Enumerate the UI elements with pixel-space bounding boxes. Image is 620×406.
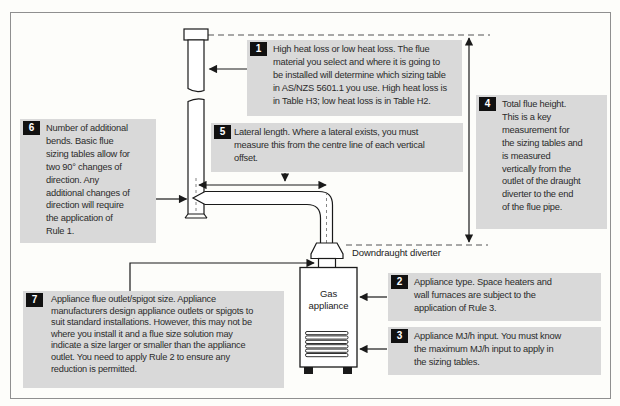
callout-box-5: 5 Lateral length. Where a lateral exists… xyxy=(211,123,463,172)
lateral-pipe-fill xyxy=(205,192,333,244)
callout-7-number-badge: 7 xyxy=(26,293,43,307)
callout-1-text: High heat loss or low heat loss. The flu… xyxy=(247,40,462,108)
callout-6-number-badge: 6 xyxy=(23,121,40,135)
callout-box-1: 1 High heat loss or low heat loss. The f… xyxy=(247,40,462,116)
callout-2-number-badge: 2 xyxy=(391,275,408,289)
callout-box-3: 3 Appliance MJ/h input. You must know th… xyxy=(388,327,601,375)
callout-7-text: Appliance flue outlet/spigot size. Appli… xyxy=(23,291,284,375)
callout-5-number-badge: 5 xyxy=(214,125,231,139)
flue-terminal-cap xyxy=(184,29,208,40)
callout-1-number-badge: 1 xyxy=(250,42,267,56)
callout-box-2: 2 Appliance type. Space heaters and wall… xyxy=(388,273,601,321)
callout-5-text: Lateral length. Where a lateral exists, … xyxy=(211,123,463,165)
callout-box-7: 7 Appliance flue outlet/spigot size. App… xyxy=(23,291,284,388)
callout-7-connector-arrow xyxy=(130,263,314,291)
figure-flue-sizing-diagram: Downdraught diverter Gas appliance 1 Hig… xyxy=(0,0,620,406)
callout-2-text: Appliance type. Space heaters and wall f… xyxy=(388,273,601,315)
callout-3-number-badge: 3 xyxy=(391,329,408,343)
downdraught-diverter xyxy=(311,243,343,259)
appliance-foot-right xyxy=(343,367,352,374)
callout-box-6: 6 Number of additional bends. Basic flue… xyxy=(20,119,156,243)
gas-appliance-label: Gas appliance xyxy=(300,288,357,312)
downdraught-diverter-label: Downdraught diverter xyxy=(352,247,441,258)
callout-4-text: Total flue height. This is a key measure… xyxy=(476,95,607,214)
callout-box-4: 4 Total flue height. This is a key measu… xyxy=(476,95,607,229)
callout-6-text: Number of additional bends. Basic flue s… xyxy=(20,119,156,238)
callout-3-text: Appliance MJ/h input. You must know the … xyxy=(388,327,601,369)
callout-4-number-badge: 4 xyxy=(479,97,496,111)
appliance-foot-left xyxy=(304,367,313,374)
flue-pipe-upper-segment xyxy=(188,40,204,92)
